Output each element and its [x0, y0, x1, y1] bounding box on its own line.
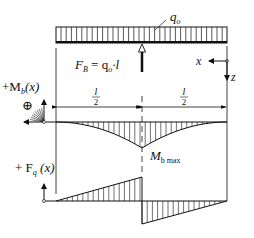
svg-text:l: l: [183, 86, 186, 97]
support-reaction-label: FB = qo·l: [74, 57, 119, 74]
support-reaction-arrow-icon: [139, 44, 146, 72]
beam-diagram: qo FB = qo·l x z l 2 l 2 +Mb(x) ⊕: [0, 0, 254, 238]
moment-diagram-title: +Mb(x): [2, 79, 39, 96]
positive-sign-icon: ⊕: [22, 98, 33, 113]
svg-text:2: 2: [94, 97, 99, 107]
svg-text:l: l: [95, 86, 98, 97]
dimension-label-right: l 2: [180, 86, 188, 107]
dimension-label-left: l 2: [92, 86, 100, 107]
shear-axes-icon: [43, 184, 46, 203]
x-axis-label: x: [195, 54, 202, 68]
shear-diagram-title: + Fq (x): [15, 160, 55, 177]
max-moment-label: Mb max: [149, 148, 181, 165]
svg-text:qo: qo: [170, 9, 181, 26]
moment-curve: [56, 122, 227, 148]
svg-text:2: 2: [182, 97, 187, 107]
distributed-load-block: [56, 27, 227, 43]
coordinate-system-icon: [209, 60, 228, 80]
z-axis-label: z: [230, 70, 236, 84]
